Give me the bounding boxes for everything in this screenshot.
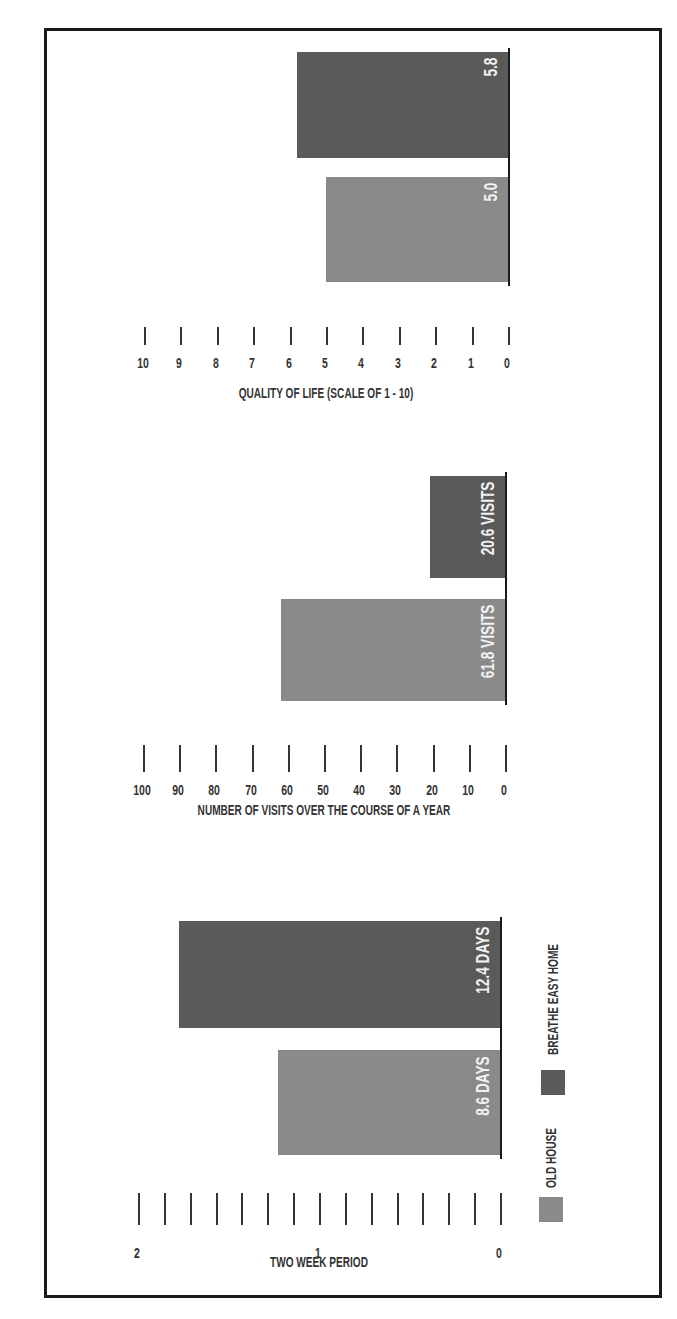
quality-baseline	[508, 48, 510, 286]
visits-axis-tick-label: 0	[501, 782, 507, 798]
days-axis-tick	[241, 1193, 243, 1225]
days-axis-tick	[190, 1193, 192, 1225]
visits-axis-tick-label: 20	[426, 782, 438, 798]
visits-axis-tick	[288, 745, 290, 772]
visits-bar-breathe-easy-home: 20.6 VISITS	[430, 476, 505, 578]
days-axis-title: TWO WEEK PERIOD	[270, 1254, 368, 1270]
visits-axis-tick	[215, 745, 217, 772]
days-axis-tick	[448, 1193, 450, 1225]
legend-swatch-old-house	[539, 1197, 563, 1222]
days-axis-tick-label: 0	[496, 1245, 502, 1261]
visits-axis-tick-label: 30	[390, 782, 402, 798]
visits-axis-tick	[396, 745, 398, 772]
days-axis-tick	[500, 1193, 502, 1225]
visits-axis-tick-label: 80	[209, 782, 221, 798]
days-axis-tick	[474, 1193, 476, 1225]
days-axis-tick	[371, 1193, 373, 1225]
quality-axis-tick-label: 7	[249, 355, 255, 371]
quality-axis-tick	[508, 327, 510, 345]
days-axis-tick	[319, 1193, 321, 1225]
days-axis-tick	[164, 1193, 166, 1225]
quality-bar-old-house: 5.0	[326, 177, 508, 282]
visits-axis-tick	[469, 745, 471, 772]
days-axis-tick	[267, 1193, 269, 1225]
quality-axis-tick-label: 9	[176, 355, 182, 371]
visits-axis-tick-label: 40	[353, 782, 365, 798]
visits-axis-tick-label: 90	[172, 782, 184, 798]
quality-bar-value-label: 5.0	[480, 183, 502, 202]
visits-axis-title: NUMBER OF VISITS OVER THE COURSE OF A YE…	[198, 802, 451, 818]
quality-axis-tick	[399, 327, 401, 345]
visits-baseline	[505, 472, 507, 705]
quality-axis-tick-label: 10	[137, 355, 149, 371]
days-axis-tick	[138, 1193, 140, 1225]
visits-axis-tick	[433, 745, 435, 772]
visits-axis-tick	[505, 745, 507, 772]
legend-label-old-house: OLD HOUSE	[543, 1128, 559, 1188]
days-axis-tick	[216, 1193, 218, 1225]
days-bar-value-label: 8.6 DAYS	[472, 1056, 494, 1116]
visits-axis-tick	[252, 745, 254, 772]
visits-axis-tick	[324, 745, 326, 772]
quality-axis-tick	[472, 327, 474, 345]
days-axis-tick	[293, 1193, 295, 1225]
quality-axis-tick-label: 5	[322, 355, 328, 371]
legend-label-breathe-easy-home: BREATHE EASY HOME	[545, 944, 561, 1055]
quality-axis-tick	[435, 327, 437, 345]
rotated-chart-stage: 8.6 DAYS12.4 DAYS012TWO WEEK PERIOD61.8 …	[0, 0, 677, 1319]
days-bar-breathe-easy-home: 12.4 DAYS	[179, 921, 500, 1028]
quality-axis-tick	[253, 327, 255, 345]
quality-axis-tick	[326, 327, 328, 345]
page: 8.6 DAYS12.4 DAYS012TWO WEEK PERIOD61.8 …	[0, 0, 677, 1319]
quality-axis-tick	[217, 327, 219, 345]
quality-axis-tick-label: 3	[395, 355, 401, 371]
quality-bar-breathe-easy-home: 5.8	[297, 52, 508, 158]
quality-axis-tick	[362, 327, 364, 345]
quality-axis-tick-label: 8	[213, 355, 219, 371]
days-bar-value-label: 12.4 DAYS	[472, 927, 494, 994]
quality-axis-tick-label: 4	[358, 355, 364, 371]
visits-axis-tick-label: 50	[317, 782, 329, 798]
visits-bar-value-label: 61.8 VISITS	[477, 605, 499, 679]
visits-axis-tick-label: 10	[462, 782, 474, 798]
days-baseline	[500, 917, 502, 1159]
days-axis-tick	[422, 1193, 424, 1225]
quality-axis-tick-label: 2	[431, 355, 437, 371]
legend-swatch-breathe-easy-home	[541, 1070, 565, 1095]
visits-bar-value-label: 20.6 VISITS	[477, 482, 499, 556]
quality-axis-title: QUALITY OF LIFE (SCALE OF 1 - 10)	[239, 385, 414, 401]
days-axis-tick	[397, 1193, 399, 1225]
visits-axis-tick-label: 70	[245, 782, 257, 798]
days-axis-tick	[345, 1193, 347, 1225]
visits-axis-tick	[360, 745, 362, 772]
visits-axis-tick	[143, 745, 145, 772]
visits-bar-old-house: 61.8 VISITS	[281, 599, 505, 701]
quality-axis-tick-label: 6	[286, 355, 292, 371]
days-axis-tick-label: 2	[134, 1245, 140, 1261]
visits-axis-tick	[179, 745, 181, 772]
quality-axis-tick	[180, 327, 182, 345]
quality-bar-value-label: 5.8	[480, 58, 502, 77]
visits-axis-tick-label: 100	[133, 782, 151, 798]
visits-axis-tick-label: 60	[281, 782, 293, 798]
quality-axis-tick-label: 0	[504, 355, 510, 371]
quality-axis-tick	[144, 327, 146, 345]
quality-axis-tick	[290, 327, 292, 345]
days-bar-old-house: 8.6 DAYS	[278, 1050, 500, 1155]
quality-axis-tick-label: 1	[468, 355, 474, 371]
